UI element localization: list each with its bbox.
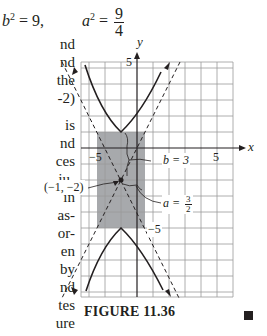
a-fraction: 32 xyxy=(185,195,192,214)
x-tick-neg5: −5 xyxy=(89,150,102,165)
arrowhead-icon xyxy=(71,287,78,295)
x-tick-5: 5 xyxy=(213,150,219,165)
center-point xyxy=(119,178,124,183)
figure-caption: FIGURE 11.36 xyxy=(84,304,175,320)
x-axis-label: x xyxy=(248,139,254,155)
x-axis-arrow-icon xyxy=(239,145,246,151)
center-label: (−1, −2) xyxy=(43,180,85,195)
arrowhead-icon xyxy=(165,289,171,297)
y-tick-5: 5 xyxy=(126,55,132,70)
y-axis-arrow-icon xyxy=(134,52,140,59)
y-tick-neg5: −5 xyxy=(147,222,162,237)
b-label-text: b = 3 xyxy=(163,153,189,167)
b-label: b = 3 xyxy=(162,153,190,168)
upper-branch xyxy=(85,65,161,132)
a-label-text: a = xyxy=(163,196,180,210)
fraction-denominator: 2 xyxy=(185,205,192,214)
y-axis-label: y xyxy=(137,34,143,50)
arrowhead-icon xyxy=(72,67,78,75)
lower-branch xyxy=(86,228,163,291)
hyperbola-figure xyxy=(0,0,267,336)
a-label: a = 32 xyxy=(162,195,193,214)
end-of-example-icon xyxy=(244,311,253,320)
